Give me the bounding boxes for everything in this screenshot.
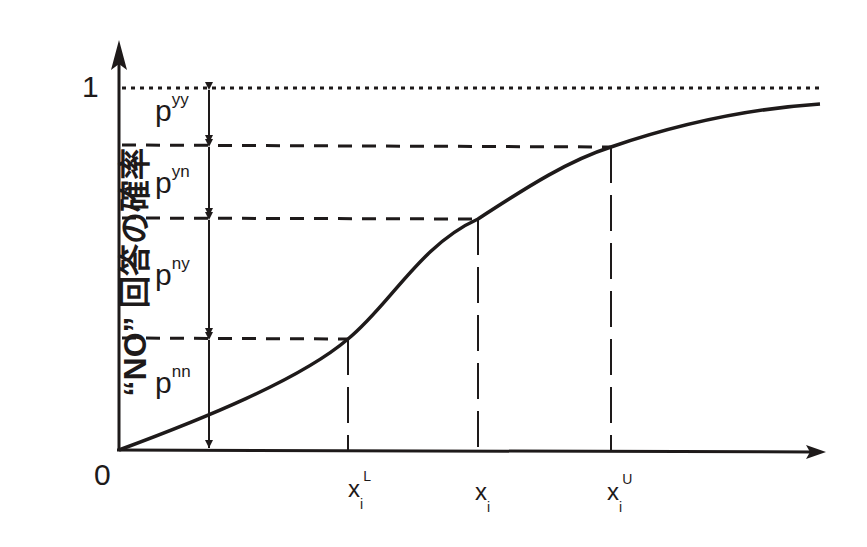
y-tick-one: 1 [82,70,99,104]
x-tick-xL: xiL [348,475,371,503]
origin-label: 0 [94,458,111,492]
level-xL-dashed-line [122,338,348,339]
level-xU-dashed-line [122,145,611,147]
y-axis-label: “NO” 回答の確率 [109,148,155,397]
probability-curve [119,104,820,450]
segment-label-pyn: pyn [155,166,190,200]
segment-label-pnn: pnn [155,366,191,400]
level-x-dashed-line [122,218,478,219]
x-tick-xU: xiU [607,478,632,506]
x-axis [117,445,826,459]
x-tick-x: xi [475,478,490,506]
segment-label-pyy: pyy [155,94,189,128]
segment-label-pny: pny [155,258,190,292]
